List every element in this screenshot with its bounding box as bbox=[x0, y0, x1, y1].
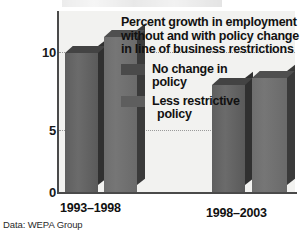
legend-item-no-change: No change in policy bbox=[121, 63, 271, 89]
legend-label-no-change: No change in policy bbox=[152, 63, 227, 89]
bar-side bbox=[287, 65, 295, 185]
legend-label-line-2: policy bbox=[152, 108, 240, 121]
legend-swatch-no-change bbox=[121, 64, 145, 75]
source-note: Data: WEPA Group bbox=[3, 219, 83, 230]
chart-title-line-3: in line of business restrictions bbox=[121, 43, 293, 57]
legend-swatch-less-restrictive bbox=[121, 96, 145, 107]
y-axis-tick-0: 0 bbox=[49, 186, 56, 199]
chart-legend: No change in policy Less restrictive pol… bbox=[121, 63, 271, 127]
x-axis-label-1993-1998: 1993–1998 bbox=[60, 201, 121, 215]
bar-front bbox=[65, 53, 98, 192]
x-axis-line bbox=[57, 192, 297, 194]
chart-title: Percent growth in employment without and… bbox=[121, 16, 293, 57]
legend-label-line-2: policy bbox=[152, 76, 227, 89]
bar-1993-1998-no-change bbox=[65, 46, 98, 192]
legend-item-less-restrictive: Less restrictive policy bbox=[121, 95, 271, 121]
legend-label-less-restrictive: Less restrictive policy bbox=[152, 95, 240, 121]
chart-title-line-1: Percent growth in employment bbox=[121, 16, 293, 30]
y-axis-tick-10: 10 bbox=[42, 46, 56, 59]
x-axis-label-1998-2003: 1998–2003 bbox=[206, 206, 267, 220]
y-axis-tick-5: 5 bbox=[49, 124, 56, 137]
chart-title-line-2: without and with policy change bbox=[121, 30, 293, 44]
bar-chart: 10 5 0 Percent growth in employment with… bbox=[0, 0, 302, 236]
